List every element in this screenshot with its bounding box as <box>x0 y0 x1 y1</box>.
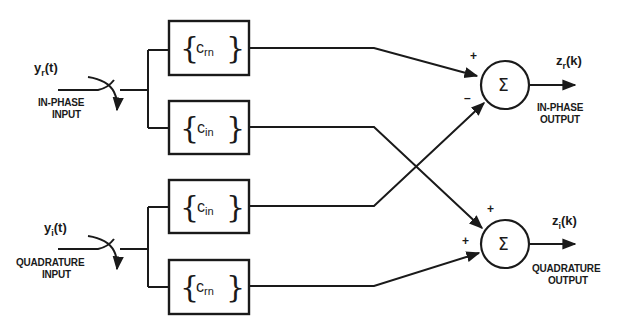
brace-close-icon: } <box>226 110 245 145</box>
filter-block-2: { cin } <box>169 101 249 154</box>
in-phase-output: zr(k) IN-PHASE OUTPUT <box>529 53 584 125</box>
in-phase-output-label-2: OUTPUT <box>540 114 580 125</box>
brace-close-icon: } <box>226 269 245 304</box>
quadrature-input-label-1: QUADRATURE <box>16 257 85 268</box>
summing-junction-2: Σ + + <box>462 202 529 268</box>
in-phase-input-line <box>58 80 114 90</box>
in-phase-input-label-1: IN-PHASE <box>38 97 85 108</box>
minus-sign: – <box>464 91 471 105</box>
wire-f2-to-sum2 <box>249 127 482 228</box>
quadrature-output: zi(k) QUADRATURE OUTPUT <box>529 213 601 286</box>
in-phase-input-label-2: INPUT <box>52 109 81 120</box>
sigma-icon: Σ <box>498 75 509 95</box>
quadrature-output-label-1: QUADRATURE <box>532 263 601 274</box>
plus-sign: + <box>487 202 494 216</box>
plus-sign: + <box>462 234 469 248</box>
brace-close-icon: } <box>226 30 245 65</box>
filter-block-4: { crn } <box>169 260 249 314</box>
summing-junction-1: Σ + – <box>464 49 529 109</box>
quadrature-output-signal: zi(k) <box>552 213 577 231</box>
in-phase-output-signal: zr(k) <box>556 53 582 71</box>
plus-sign: + <box>470 49 477 63</box>
in-phase-output-label-1: IN-PHASE <box>537 102 584 113</box>
wire-f1-to-sum1 <box>249 48 477 76</box>
brace-close-icon: } <box>226 189 245 224</box>
in-phase-input-signal: yr(t) <box>34 60 58 78</box>
quadrature-input-signal: yi(t) <box>44 220 67 238</box>
filter-block-3: { cin } <box>169 180 249 233</box>
in-phase-input: yr(t) IN-PHASE INPUT <box>34 50 169 128</box>
sigma-icon: Σ <box>498 234 509 254</box>
quadrature-input-line <box>58 239 114 249</box>
quadrature-input-label-2: INPUT <box>42 269 71 280</box>
quadrature-output-label-2: OUTPUT <box>548 275 588 286</box>
quadrature-input: yi(t) QUADRATURE INPUT <box>16 207 169 287</box>
wire-f3-to-sum1 <box>249 103 484 206</box>
complex-filter-block-diagram: yr(t) IN-PHASE INPUT yi(t) QUADRATURE IN… <box>0 0 641 331</box>
wire-f4-to-sum2 <box>249 253 479 286</box>
filter-block-1: { crn } <box>169 21 249 75</box>
